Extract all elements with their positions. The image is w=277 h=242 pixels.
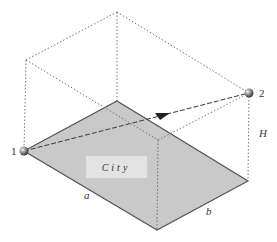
diagram-canvas: City 1 2 a b H (0, 0, 277, 242)
point-2-label: 2 (259, 87, 265, 99)
point-2 (245, 89, 254, 98)
city-label: City (102, 162, 131, 173)
dimension-a-label: a (84, 189, 90, 201)
point-1-label: 1 (11, 145, 17, 157)
dimension-b-label: b (206, 205, 212, 217)
dimension-h-label: H (258, 127, 268, 139)
point-1 (20, 147, 29, 156)
